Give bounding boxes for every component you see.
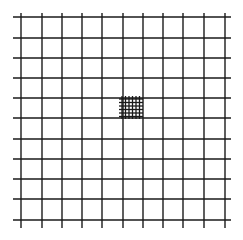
background	[0, 0, 243, 240]
grid-diagram	[0, 0, 243, 240]
